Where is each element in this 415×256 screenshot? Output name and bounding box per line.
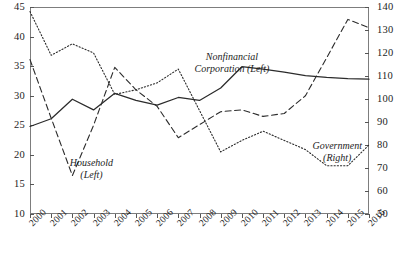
- page-title: [0, 0, 415, 2]
- right-axis-tick-label: 70: [377, 163, 388, 174]
- annotation-line-2: (Left): [70, 169, 113, 181]
- right-axis-tick-label: 60: [377, 186, 388, 197]
- right-axis-tick-label: 140: [377, 2, 393, 13]
- left-axis-tick-label: 35: [0, 61, 25, 72]
- right-axis-tick-label: 80: [377, 140, 388, 151]
- right-axis-tick-label: 130: [377, 25, 393, 36]
- annotation-line-1: Government: [313, 140, 362, 152]
- left-axis-tick-label: 30: [0, 91, 25, 102]
- right-axis-tick-label: 110: [377, 71, 393, 82]
- annotation-government: Government (Right): [313, 140, 362, 163]
- chart-root: 1015202530354045 50607080901001101201301…: [0, 0, 415, 256]
- right-axis-tick-label: 90: [377, 117, 388, 128]
- right-axis-tick-label: 100: [377, 94, 393, 105]
- series-line-nonfinancial-corporation-left: [30, 67, 369, 127]
- annotation-line-1: Nonfinancial: [195, 51, 270, 63]
- left-axis-tick-label: 10: [0, 209, 25, 220]
- annotation-line-2: (Right): [313, 152, 362, 164]
- series-layer: [30, 7, 369, 214]
- left-axis-tick-label: 15: [0, 179, 25, 190]
- annotation-nonfinancial-corporation: Nonfinancial Corporation (Left): [195, 51, 270, 74]
- left-axis-tick-label: 25: [0, 120, 25, 131]
- left-axis-tick-label: 45: [0, 2, 25, 13]
- annotation-line-2: Corporation (Left): [195, 63, 270, 75]
- annotation-household: Household (Left): [70, 157, 113, 180]
- left-axis-tick-label: 40: [0, 32, 25, 43]
- right-axis-tick-label: 120: [377, 48, 393, 59]
- left-axis-tick-label: 20: [0, 150, 25, 161]
- annotation-line-1: Household: [70, 157, 113, 169]
